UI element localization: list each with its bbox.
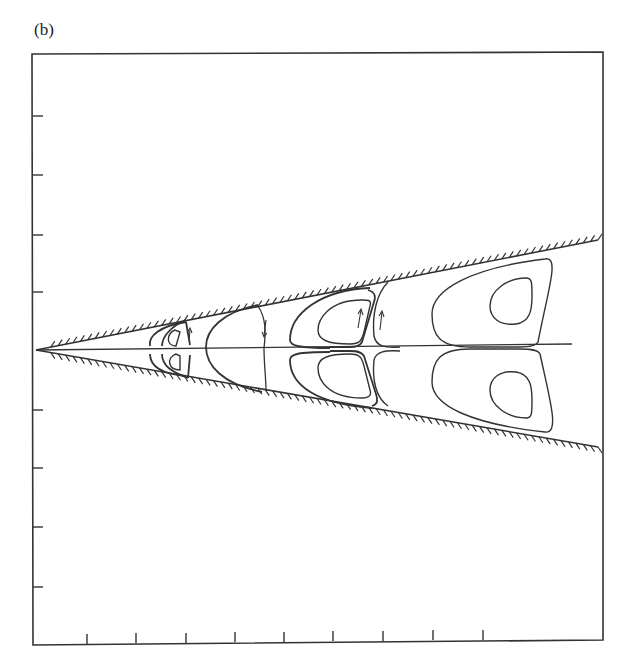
wedge-flow-diagram	[0, 0, 634, 670]
eddy-4	[374, 282, 400, 406]
flow-arrow-4	[379, 311, 384, 330]
wall-hatching	[51, 234, 602, 453]
flow-arrow-3	[358, 309, 363, 328]
eddy-3	[290, 288, 377, 408]
